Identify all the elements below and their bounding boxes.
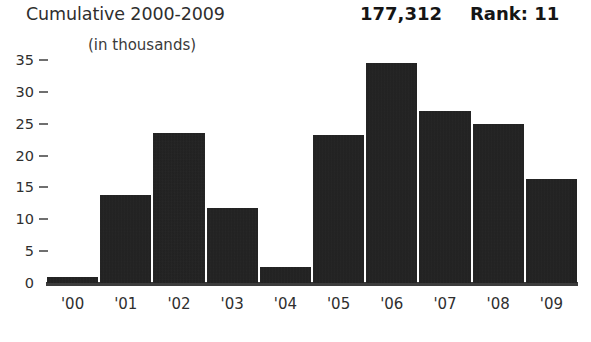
bar-column [312, 60, 365, 283]
y-axis-tick: 0 [0, 276, 48, 290]
y-axis-tick-label: 0 [25, 276, 34, 290]
y-axis-tick: 15 [0, 180, 48, 194]
bar [47, 277, 98, 283]
x-axis-tick-label: '03 [206, 294, 259, 314]
y-axis-tick-label: 30 [16, 85, 34, 99]
y-axis-tick: 30 [0, 85, 48, 99]
y-axis-tick: 25 [0, 117, 48, 131]
x-axis-tick-label: '09 [525, 294, 578, 314]
bar-column [206, 60, 259, 283]
y-axis-tick-label: 5 [25, 244, 34, 258]
y-axis-tick-label: 15 [16, 180, 34, 194]
x-axis-tick-label: '07 [418, 294, 471, 314]
y-axis-tick: 20 [0, 149, 48, 163]
x-axis-tick-label: '04 [259, 294, 312, 314]
bar [207, 208, 258, 283]
x-axis-tick-label: '05 [312, 294, 365, 314]
bar-column [472, 60, 525, 283]
bar-column [525, 60, 578, 283]
bar [419, 111, 470, 283]
x-axis-labels: '00'01'02'03'04'05'06'07'08'09 [46, 294, 578, 320]
x-axis-tick-label: '01 [99, 294, 152, 314]
bar-column [259, 60, 312, 283]
bar-column [418, 60, 471, 283]
bar-column [365, 60, 418, 283]
y-axis-tick: 10 [0, 212, 48, 226]
y-axis-tick-label: 20 [16, 149, 34, 163]
bar [473, 124, 524, 283]
bar-column [99, 60, 152, 283]
x-axis-tick-label: '08 [472, 294, 525, 314]
y-axis-tick-label: 10 [16, 212, 34, 226]
bar [100, 195, 151, 283]
bar [366, 63, 417, 283]
y-axis-tick-label: 25 [16, 117, 34, 131]
x-axis-tick-label: '02 [152, 294, 205, 314]
bar-series [46, 60, 578, 283]
bar [153, 133, 204, 283]
bar [313, 135, 364, 283]
bar-chart: 35302520151050 '00'01'02'03'04'05'06'07'… [0, 0, 591, 342]
x-axis-tick-label: '06 [365, 294, 418, 314]
y-axis-tick: 5 [0, 244, 48, 258]
y-axis-tick: 35 [0, 53, 48, 67]
x-axis-tick-label: '00 [46, 294, 99, 314]
bar [526, 179, 577, 283]
bar-column [46, 60, 99, 283]
y-axis-tick-label: 35 [16, 53, 34, 67]
bar-column [152, 60, 205, 283]
bar [260, 267, 311, 283]
